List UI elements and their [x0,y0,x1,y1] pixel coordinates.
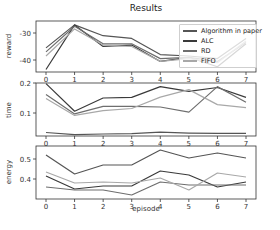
y-axis-label: time [5,102,13,118]
legend-label: RD [201,47,211,55]
y-tick-label: 0.4 [20,176,32,184]
panel-energy: 0.50.4energy01234567 [5,146,256,211]
legend-label: FIFO [201,57,216,65]
y-tick-label: -30 [20,30,31,38]
series-line-fifo [46,172,246,190]
legend-item-algorithm: Algorithm in paper [183,26,262,36]
y-axis-label: reward [5,34,13,58]
legend-label: ALC [201,37,214,45]
legend-swatch-rd [183,50,197,51]
x-tick-label: 3 [129,140,133,148]
x-tick-label: 4 [158,140,163,148]
x-axis-label: episode [36,205,256,213]
y-tick-label: 0.2 [20,80,31,88]
legend-item-rd: RD [183,46,211,56]
chart-title: Results [0,3,280,13]
x-tick-label: 2 [101,140,105,148]
series-line-fifo [46,90,246,116]
y-tick-label: 0.1 [20,110,31,118]
y-axis-label: energy [5,160,13,184]
legend-swatch-alc [183,40,197,41]
series-line-algorithm-in-paper [46,132,246,134]
x-tick-label: 1 [72,140,76,148]
y-tick-label: 0.5 [20,156,31,164]
series-line-rd [46,87,246,114]
legend: Algorithm in paper ALC RD FIFO [179,24,257,68]
legend-item-alc: ALC [183,36,214,46]
legend-swatch-fifo [183,60,197,61]
panel-time: 0.20.1time01234567 [5,80,256,149]
x-tick-label: 6 [215,140,220,148]
x-tick-label: 5 [187,140,191,148]
legend-item-fifo: FIFO [183,56,216,66]
legend-label: Algorithm in paper [201,27,262,35]
x-tick-label: 0 [44,140,48,148]
series-line-algorithm-in-paper [46,150,246,174]
y-tick-label: -40 [20,57,31,65]
x-tick-label: 7 [244,140,248,148]
legend-swatch-algorithm [183,30,197,31]
